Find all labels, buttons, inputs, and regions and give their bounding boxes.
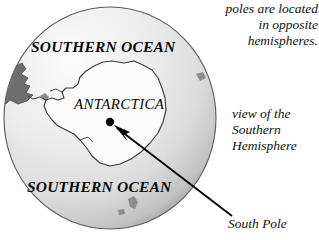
island-speckle-icon: [118, 209, 125, 215]
label-antarctica: ANTARCTICA: [74, 96, 164, 114]
annotation-poles-opposite: poles are located in opposite hemisphere…: [190, 1, 318, 49]
annotation-line: view of the: [232, 106, 319, 122]
south-pole-dot: [106, 118, 114, 126]
annotation-view-of-southern-hemisphere: view of the Southern Hemisphere: [232, 106, 319, 154]
annotation-line: hemispheres.: [190, 33, 318, 49]
annotation-line: poles are located: [190, 1, 318, 17]
label-south-pole: South Pole: [228, 216, 287, 232]
label-southern-ocean-top: SOUTHERN OCEAN: [31, 38, 175, 56]
label-southern-ocean-bottom: SOUTHERN OCEAN: [27, 178, 171, 196]
annotation-line: in opposite: [190, 17, 318, 33]
annotation-line: Hemisphere: [232, 138, 319, 154]
annotation-line: Southern: [232, 122, 319, 138]
figure-canvas: SOUTHERN OCEAN SOUTHERN OCEAN ANTARCTICA…: [0, 0, 319, 240]
